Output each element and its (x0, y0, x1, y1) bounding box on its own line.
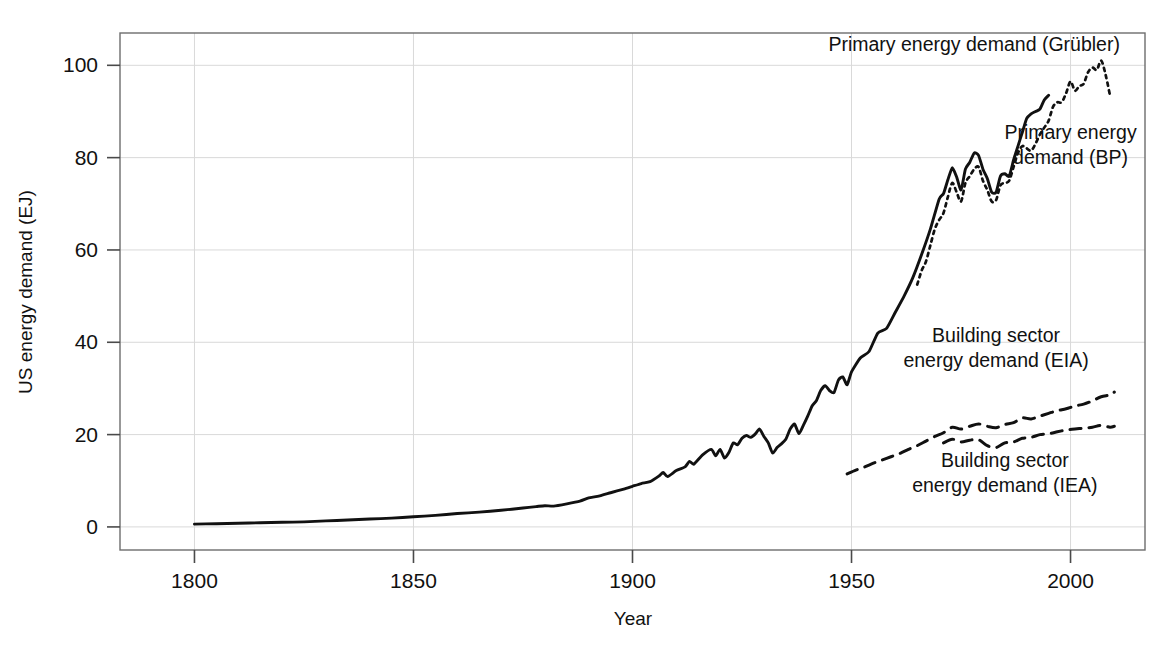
x-axis-title: Year (614, 608, 653, 629)
gridlines (120, 33, 1145, 550)
xtick-label-1850: 1850 (390, 569, 437, 592)
series-path-1 (917, 61, 1110, 285)
xtick-label-1950: 1950 (828, 569, 875, 592)
ann-grubler: Primary energy demand (Grübler) (828, 33, 1120, 55)
axis-titles: Year US energy demand (EJ) (15, 190, 653, 629)
series-path-0 (194, 95, 1048, 524)
ytick-label-100: 100 (63, 53, 98, 76)
tick-labels: 02040608010018001850190019502000 (63, 53, 1094, 592)
series-path-3 (944, 425, 1115, 447)
ann-eia: Building sectorenergy demand (EIA) (903, 324, 1088, 371)
y-axis-title: US energy demand (EJ) (15, 190, 36, 394)
ytick-label-60: 60 (75, 238, 98, 261)
ytick-label-40: 40 (75, 330, 98, 353)
ytick-label-0: 0 (86, 515, 98, 538)
figure-container: 02040608010018001850190019502000 Primary… (0, 0, 1167, 656)
xtick-label-2000: 2000 (1047, 569, 1094, 592)
xtick-label-1800: 1800 (171, 569, 218, 592)
line-chart: 02040608010018001850190019502000 Primary… (0, 0, 1167, 656)
ytick-label-80: 80 (75, 146, 98, 169)
ytick-label-20: 20 (75, 423, 98, 446)
xtick-label-1900: 1900 (609, 569, 656, 592)
ann-iea: Building sectorenergy demand (IEA) (912, 449, 1097, 496)
